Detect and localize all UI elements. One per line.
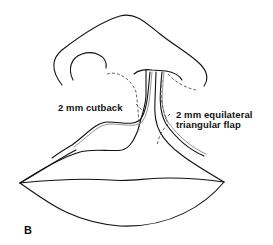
philtrum-left-line	[20, 70, 146, 183]
panel-label: B	[24, 224, 32, 236]
dashed-right-nostril	[168, 74, 196, 90]
upper-lip-left	[20, 150, 76, 183]
lower-lip	[20, 182, 224, 226]
flap-label: 2 mm equilateral triangular flap	[176, 110, 253, 130]
columella	[134, 70, 182, 80]
upper-lip-line	[20, 178, 224, 183]
flap-label-line2: triangular flap	[176, 120, 253, 130]
cutback-label: 2 mm cutback	[58, 103, 123, 113]
left-nostril	[70, 53, 106, 80]
nose-outline	[54, 15, 207, 86]
dashed-cutback-pointer	[136, 104, 142, 110]
cutback-edge	[52, 72, 150, 158]
